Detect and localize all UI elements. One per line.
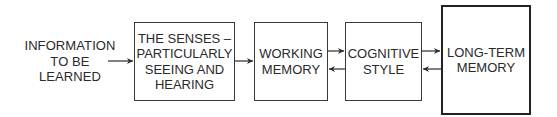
arrows-layer — [0, 0, 557, 117]
